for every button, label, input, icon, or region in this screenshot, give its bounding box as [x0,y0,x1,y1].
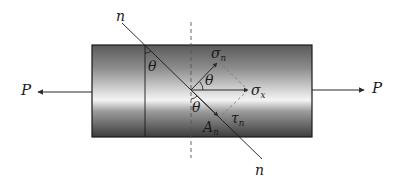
bar-body [92,45,312,137]
diagram-svg [0,0,403,184]
label-angle-left: θ [148,59,156,73]
label-force-left: P [21,83,31,98]
diagram-canvas: n n P P θ θ θ σn σx τn An [0,0,403,184]
label-angle-sigma: θ [205,73,213,87]
label-sigma-x: σx [251,83,265,100]
label-area-n: An [203,120,219,137]
label-tau-n: τn [231,111,244,128]
label-force-right: P [372,81,382,96]
label-angle-tau: θ [192,100,200,114]
label-section-bottom-n: n [255,163,264,177]
label-sigma-n: σn [211,46,226,63]
label-section-top-n: n [116,9,125,23]
